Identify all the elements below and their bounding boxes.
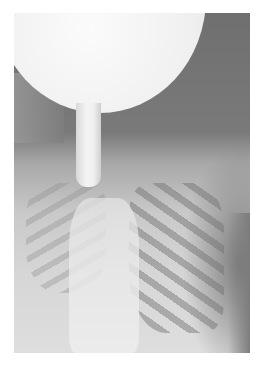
chest-wall-edge — [228, 213, 250, 353]
right-lung-field — [129, 183, 224, 333]
radiopaque-tube — [76, 103, 101, 187]
mediastinum — [69, 198, 139, 353]
xray-image — [14, 13, 250, 353]
